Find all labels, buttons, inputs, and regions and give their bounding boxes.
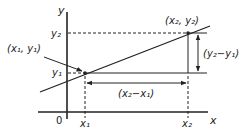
y2-tick-label: y₂ [50, 28, 61, 39]
y-axis-label: y [57, 4, 65, 17]
line-slope-diagram: y x 0 y₂ y₁ x₁ x₂ (x₁, y₁) (x₂, y₂) (y₂−… [0, 0, 250, 138]
x1-tick-label: x₁ [79, 118, 90, 129]
run-label: (x₂−x₁) [118, 88, 154, 99]
origin-label: 0 [56, 115, 62, 126]
rise-label: (y₂−y₁) [203, 48, 239, 59]
y1-tick-label: y₁ [51, 67, 62, 78]
sloped-line [40, 26, 210, 92]
x2-tick-label: x₂ [181, 118, 192, 129]
point-2-label: (x₂, y₂) [165, 15, 199, 26]
point-1 [83, 71, 87, 75]
point-2 [186, 31, 190, 35]
p1-leader [44, 57, 82, 71]
point-1-label: (x₁, y₁) [7, 43, 41, 54]
x-axis-label: x [209, 114, 217, 127]
